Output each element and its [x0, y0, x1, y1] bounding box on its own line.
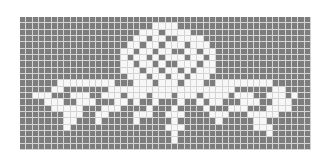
filled-square	[305, 144, 311, 150]
filet-rose-chart	[20, 17, 311, 150]
